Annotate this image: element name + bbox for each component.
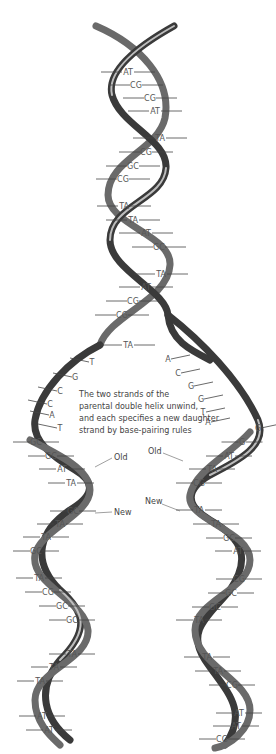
- parent-base-pair-10: AT: [141, 229, 151, 238]
- daughter-left-base-pair-8: TA: [33, 574, 44, 583]
- daughter-left-base-pair-7: GC: [30, 547, 42, 556]
- parent-base-pair-8: TA: [118, 202, 129, 211]
- left-daughter-strand: [30, 440, 90, 745]
- parent-base-pair-4: TA: [154, 134, 165, 143]
- daughter-right-base-pair-14: CG: [226, 681, 238, 690]
- label-new-right: New: [145, 497, 163, 506]
- unwound-left-base-0: T: [89, 358, 95, 367]
- daughter-right-base-pair-9: GC: [225, 589, 237, 598]
- parent-base-pair-5: CG: [140, 148, 152, 157]
- unwound-left-base-3: C: [47, 400, 53, 409]
- label-old-left: Old: [114, 453, 128, 462]
- parent-base-pair-9: TA: [127, 216, 138, 225]
- daughter-right-base-pair-1: AT: [224, 452, 234, 461]
- dna-replication-diagram: ATCGCGATTACGGCCGTATAATGCTAATCGCGTA TGCCA…: [0, 0, 276, 754]
- unwound-right-base-0: A: [165, 355, 171, 364]
- daughter-left-base-pair-14: TA: [34, 677, 45, 686]
- daughter-right-base-pair-3: CG: [193, 479, 205, 488]
- daughter-right-base-pair-10: GC: [209, 603, 221, 612]
- daughter-right-base-pair-17: CG: [216, 735, 228, 744]
- caption-line-3: and each specifies a new daughter: [79, 414, 220, 423]
- parent-base-pair-3: AT: [150, 107, 160, 116]
- daughter-left-base-pair-0: GC: [30, 438, 42, 447]
- unwound-left-base-2: C: [57, 387, 63, 396]
- parent-base-pair-13: AT: [141, 283, 151, 292]
- parent-base-pair-1: CG: [130, 81, 142, 90]
- unwound-left-base-5: T: [57, 424, 63, 433]
- daughter-left-base-pair-1: GC: [45, 452, 57, 461]
- label-old-right: Old: [148, 447, 162, 456]
- daughter-left-base-pair-13: TA: [48, 663, 59, 672]
- unwound-right-base-3: G: [198, 395, 204, 404]
- daughter-right-base-pair-16: AT: [231, 722, 241, 731]
- parent-base-pair-6: GC: [127, 162, 139, 171]
- daughter-right-base-pair-6: GC: [223, 534, 235, 543]
- parent-base-pair-7: CG: [117, 175, 129, 184]
- daughter-right-base-pair-13: TA: [212, 667, 223, 676]
- unwound-right-base-2: G: [188, 382, 194, 391]
- parent-base-pair-16: TA: [122, 341, 133, 350]
- parent-base-pair-15: CG: [116, 311, 128, 320]
- daughter-left-base-pair-11: GC: [66, 616, 78, 625]
- daughter-left-base-pair-5: TA: [54, 520, 65, 529]
- daughter-left-base-pair-16: AT: [44, 726, 54, 735]
- label-new-left: New: [114, 508, 132, 517]
- daughter-right-base-pair-4: TA: [193, 506, 204, 515]
- daughter-left-base-pair-12: TA: [66, 650, 77, 659]
- right-parent-strand: [168, 315, 260, 745]
- unwound-right-base-6: G: [255, 424, 261, 433]
- daughter-left-base-pair-15: AT: [37, 712, 47, 721]
- daughter-right-base-pair-5: TA: [210, 520, 221, 529]
- daughter-right-base-pair-12: TA: [201, 653, 212, 662]
- parent-base-pair-0: AT: [123, 68, 133, 77]
- parent-base-pair-14: CG: [127, 297, 139, 306]
- daughter-left-base-pair-10: GC: [56, 602, 68, 611]
- parent-base-pair-12: TA: [155, 270, 166, 279]
- daughter-left-base-pair-9: CG: [42, 588, 54, 597]
- daughter-left-base-pair-6: TA: [40, 533, 51, 542]
- caption-line-4: strand by base-pairing rules: [79, 426, 192, 435]
- caption-line-1: The two strands of the: [78, 390, 169, 399]
- unwound-left-base-4: A: [49, 411, 55, 420]
- daughter-right-base-pair-7: AT: [233, 547, 243, 556]
- daughter-right-base-pair-8: CG: [233, 575, 245, 584]
- parent-base-pair-2: CG: [144, 94, 156, 103]
- unwound-right-base-1: C: [175, 369, 181, 378]
- daughter-right-base-pair-0: G: [239, 438, 245, 447]
- caption-line-2: parental double helix unwind,: [79, 402, 198, 411]
- daughter-right-base-pair-2: TA: [206, 465, 217, 474]
- unwound-left-base-1: G: [72, 373, 78, 382]
- daughter-left-base-pair-3: TA: [65, 479, 76, 488]
- parent-base-pair-11: GC: [153, 243, 165, 252]
- daughter-right-base-pair-11: TA: [193, 616, 204, 625]
- daughter-left-base-pair-4: GC: [67, 507, 79, 516]
- daughter-right-base-pair-15: AT: [234, 709, 244, 718]
- daughter-left-base-pair-2: AT: [57, 465, 67, 474]
